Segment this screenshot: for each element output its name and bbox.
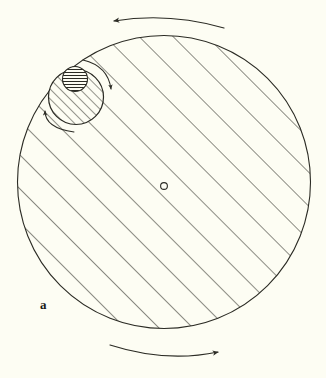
- center-point-marker: [161, 183, 168, 190]
- figure-panel: a: [0, 0, 326, 378]
- panel-label: a: [40, 298, 47, 311]
- diagram-canvas: [0, 0, 326, 378]
